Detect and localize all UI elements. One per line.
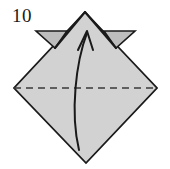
step-number-label: 10 xyxy=(12,6,32,25)
origami-step-figure: 10 xyxy=(0,0,170,169)
